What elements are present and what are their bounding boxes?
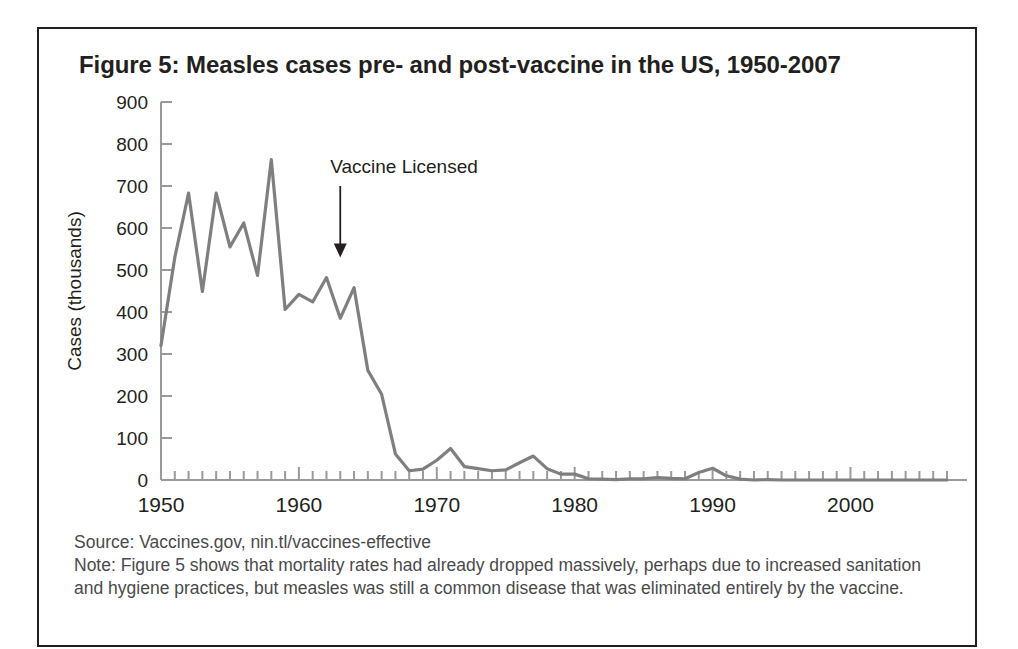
y-tick-label: 0 [137, 470, 148, 491]
y-axis: 0100200300400500600700800900Cases (thous… [64, 92, 172, 491]
y-axis-title: Cases (thousands) [64, 211, 85, 370]
annotation-label: Vaccine Licensed [330, 156, 478, 177]
x-tick-label: 1980 [551, 493, 598, 516]
caption-note: Note: Figure 5 shows that mortality rate… [74, 554, 954, 600]
x-tick-label: 1950 [138, 493, 185, 516]
vaccine-licensed-annotation: Vaccine Licensed [330, 156, 478, 257]
y-tick-label: 100 [116, 428, 148, 449]
data-series-measles [161, 160, 947, 480]
y-tick-label: 200 [116, 386, 148, 407]
x-axis: 195019601970198019902000 [138, 467, 967, 516]
y-tick-label: 300 [116, 344, 148, 365]
y-tick-label: 900 [116, 92, 148, 113]
caption-source: Source: Vaccines.gov, nin.tl/vaccines-ef… [74, 531, 954, 554]
figure-frame: Figure 5: Measles cases pre- and post-va… [37, 27, 977, 647]
y-tick-label: 800 [116, 134, 148, 155]
y-tick-label: 400 [116, 302, 148, 323]
x-tick-label: 1970 [413, 493, 460, 516]
measles-cases-line [161, 160, 947, 480]
y-tick-label: 600 [116, 218, 148, 239]
arrow-down-icon [334, 243, 347, 257]
x-tick-label: 1960 [276, 493, 323, 516]
x-tick-label: 2000 [827, 493, 874, 516]
y-tick-label: 500 [116, 260, 148, 281]
x-tick-label: 1990 [689, 493, 736, 516]
figure-caption: Source: Vaccines.gov, nin.tl/vaccines-ef… [74, 531, 954, 600]
y-tick-label: 700 [116, 176, 148, 197]
